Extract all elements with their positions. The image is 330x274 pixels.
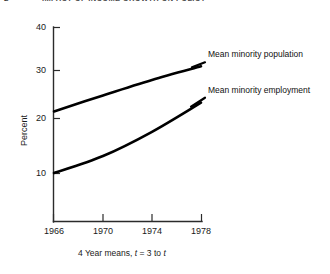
series-line-population — [54, 66, 201, 111]
series-line-employment — [54, 103, 201, 173]
x-tick-label-1966: 1966 — [37, 226, 71, 236]
y-axis-title: Percent — [19, 115, 29, 146]
y-tick-label-40: 40 — [24, 22, 46, 32]
series-label-employment: Mean minority employment — [208, 85, 310, 95]
x-tick-label-1970: 1970 — [86, 226, 120, 236]
x-tick-label-1978: 1978 — [184, 226, 218, 236]
x-tick-label-1974: 1974 — [135, 226, 169, 236]
series-label-population: Mean minority population — [208, 49, 303, 59]
caption-var-2: t — [163, 248, 165, 258]
caption-prefix: 4 Year means, — [78, 248, 132, 258]
x-axis-caption: 4 Year means, t = 3 to t — [78, 248, 330, 258]
y-tick-label-10: 10 — [24, 168, 46, 178]
line-chart-figure: 40 30 20 10 Percent 1966 1970 1974 1978 … — [0, 0, 330, 274]
y-tick-label-30: 30 — [24, 65, 46, 75]
caption-mid: = 3 to — [139, 248, 161, 258]
caption-var-1: t — [135, 248, 137, 258]
